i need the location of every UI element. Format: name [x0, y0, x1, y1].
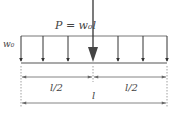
- point-load-label: P = w₀l: [54, 19, 96, 32]
- half-span-left-label: l/2: [50, 82, 63, 93]
- dimension-extension-lines: [21, 66, 167, 108]
- half-span-right-label: l/2: [125, 82, 138, 93]
- distributed-load-label: w₀: [3, 39, 15, 49]
- beam-load-diagram: P = w₀l w₀ l/2 l/2 l: [0, 0, 175, 115]
- span-label: l: [92, 90, 95, 101]
